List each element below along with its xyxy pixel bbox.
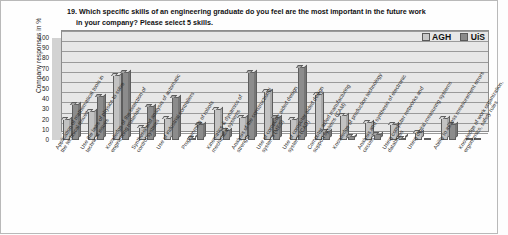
- y-axis-tick: 10: [29, 127, 49, 133]
- bar-side-face: [455, 122, 458, 139]
- y-axis-tick: 40: [29, 96, 49, 102]
- question-line-2: in your company? Please select 5 skills.: [67, 18, 479, 29]
- chart-legend: AGH UiS: [422, 32, 485, 42]
- x-axis-labels: Application of mathematical tools in the…: [51, 147, 499, 235]
- bar-top-face: [61, 117, 68, 120]
- bar-top-face: [69, 102, 76, 105]
- legend-item-agh: AGH: [422, 32, 452, 42]
- y-axis-tick: 60: [29, 76, 49, 82]
- bar-side-face: [380, 132, 383, 138]
- question-line-1: 19. Which specific skills of an engineer…: [67, 7, 426, 16]
- bar-top-face: [363, 120, 370, 123]
- y-axis-tick: 20: [29, 117, 49, 123]
- legend-swatch-uis-icon: [460, 33, 468, 41]
- bar-side-face: [203, 122, 206, 139]
- bar-top-face: [212, 107, 219, 110]
- legend-item-uis: UiS: [460, 32, 485, 42]
- bar-uis: [424, 138, 431, 140]
- bar-uis: [348, 136, 355, 140]
- legend-label-agh: AGH: [432, 32, 451, 42]
- y-axis-tick: 70: [29, 66, 49, 72]
- bar-top-face: [296, 65, 303, 68]
- bar-side-face: [354, 134, 357, 138]
- y-axis-tick: 90: [29, 45, 49, 51]
- bar-top-face: [438, 116, 445, 119]
- bar-top-face: [346, 134, 353, 137]
- y-axis-tick: 80: [29, 55, 49, 61]
- y-axis-ticks: 1009080706050403020100: [29, 30, 49, 140]
- y-axis-tick: 100: [29, 35, 49, 41]
- legend-swatch-agh-icon: [422, 33, 430, 41]
- y-axis-tick: 50: [29, 86, 49, 92]
- bar-side-face: [405, 134, 408, 138]
- y-axis-tick: 30: [29, 106, 49, 112]
- y-axis-tick: 0: [29, 137, 49, 143]
- bar-top-face: [145, 104, 152, 107]
- legend-label-uis: UiS: [471, 32, 485, 42]
- question-text: 19. Which specific skills of an engineer…: [67, 7, 479, 28]
